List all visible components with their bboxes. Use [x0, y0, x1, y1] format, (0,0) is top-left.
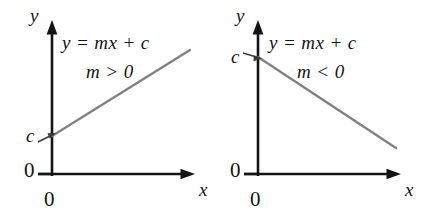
slope-condition-label: m < 0 [297, 62, 345, 81]
equation-label: y = mx + c [62, 33, 150, 52]
x-axis-negative [244, 169, 401, 179]
y-axis-negative [253, 20, 264, 176]
y-axis-positive [47, 20, 58, 176]
x-axis-label: x [405, 180, 413, 199]
y-intercept-label: c [231, 47, 239, 66]
equation-label: y = mx + c [269, 33, 357, 52]
origin-label-on-y-axis: 0 [24, 160, 35, 181]
origin-label-under-x-axis: 0 [250, 189, 261, 210]
x-axis-positive [38, 169, 195, 179]
y-axis-label: y [30, 6, 38, 25]
linear-graphs-figure: y x c 0 0 y = mx + c m > 0 [0, 0, 435, 221]
graph-panel-negative-slope: y x c 0 0 y = mx + c m < 0 [207, 0, 425, 221]
origin-label-on-y-axis: 0 [230, 160, 241, 181]
y-intercept-label: c [26, 126, 34, 145]
slope-condition-label: m > 0 [86, 62, 134, 81]
origin-label-under-x-axis: 0 [44, 189, 55, 210]
y-axis-label: y [236, 6, 244, 25]
graph-panel-positive-slope: y x c 0 0 y = mx + c m > 0 [0, 0, 218, 221]
